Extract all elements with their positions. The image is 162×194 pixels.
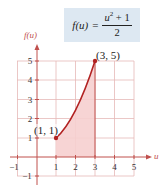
y-axis-arrow-icon [35, 44, 40, 50]
svg-text:1: 1 [54, 162, 59, 172]
y-axis-label: f(u) [24, 30, 37, 40]
svg-text:2: 2 [28, 114, 33, 124]
svg-text:3: 3 [93, 162, 98, 172]
x-axis-label: u [154, 151, 159, 161]
svg-text:4: 4 [112, 162, 117, 172]
svg-text:−1: −1 [9, 162, 19, 172]
start-point-label: (1, 1) [34, 124, 58, 136]
end-point-label: (3, 5) [96, 49, 120, 61]
svg-text:−1: −1 [22, 171, 32, 181]
svg-text:2: 2 [73, 162, 78, 172]
svg-text:5: 5 [28, 56, 33, 66]
start-point-marker [54, 136, 58, 140]
svg-text:3: 3 [28, 95, 33, 105]
svg-text:4: 4 [28, 75, 33, 85]
x-axis-arrow-icon [146, 155, 152, 160]
svg-text:1: 1 [28, 133, 33, 143]
svg-text:5: 5 [132, 162, 137, 172]
